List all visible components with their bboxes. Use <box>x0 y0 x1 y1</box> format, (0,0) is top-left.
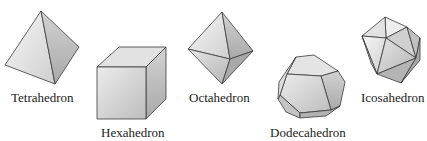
hexahedron-shape <box>97 47 166 119</box>
tetrahedron-label: Tetrahedron <box>11 91 74 104</box>
hexahedron-label: Hexahedron <box>101 126 165 139</box>
tetrahedron-shape <box>5 11 79 84</box>
octahedron-shape <box>188 12 253 84</box>
platonic-solids-figure: Tetrahedron Hexahedron Octahedron Dodeca… <box>0 0 427 141</box>
dodecahedron-label: Dodecahedron <box>270 126 346 139</box>
dodecahedron-shape <box>278 55 345 118</box>
icosahedron-shape <box>362 17 420 83</box>
octahedron-label: Octahedron <box>189 91 250 104</box>
icosahedron-label: Icosahedron <box>361 91 425 104</box>
solids-drawing <box>0 0 427 141</box>
